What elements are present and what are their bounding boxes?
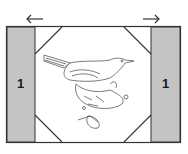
left-arrow-icon — [27, 15, 43, 23]
right-panel-label: 1 — [162, 76, 169, 91]
quilt-block-diagram — [0, 0, 188, 154]
right-arrow-icon — [143, 15, 159, 23]
left-panel-label: 1 — [17, 76, 24, 91]
